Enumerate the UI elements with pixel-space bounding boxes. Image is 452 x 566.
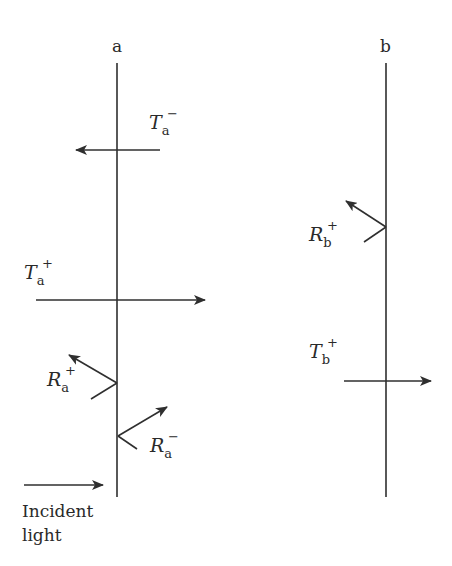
subscript: a — [162, 123, 170, 138]
label-ra-plus: R+a — [47, 370, 69, 389]
subscript: b — [322, 352, 330, 367]
subscript: a — [164, 446, 172, 461]
superscript: − — [167, 107, 178, 120]
ray-ra-plus-incoming — [91, 383, 117, 399]
label-ta-plus: T+a — [24, 263, 44, 282]
arrow-rb-plus — [346, 201, 386, 227]
symbol: T — [309, 340, 322, 362]
ray-ra-minus-incoming — [118, 436, 137, 449]
symbol: T — [24, 261, 37, 283]
superscript: + — [42, 257, 53, 270]
symbol: T — [149, 111, 162, 133]
ray-rb-plus-incoming — [364, 227, 386, 242]
superscript: − — [168, 430, 179, 443]
symbol: R — [309, 223, 323, 245]
caption-line-2: light — [22, 523, 93, 547]
superscript: + — [327, 219, 338, 232]
subscript: a — [37, 273, 45, 288]
arrow-ra-minus — [118, 407, 167, 436]
label-ta-minus: T−a — [149, 113, 169, 132]
interface-b-label: b — [380, 36, 391, 56]
label-tb-plus: T+b — [309, 342, 330, 361]
reflection-transmission-diagram — [0, 0, 452, 566]
superscript: + — [65, 364, 76, 377]
arrow-ra-plus — [69, 355, 117, 383]
incident-light-caption: Incident light — [22, 499, 93, 547]
label-rb-plus: R+b — [309, 225, 332, 244]
label-ra-minus: R−a — [150, 436, 172, 455]
caption-line-1: Incident — [22, 499, 93, 523]
symbol: R — [47, 368, 61, 390]
symbol: R — [150, 434, 164, 456]
interface-a-label: a — [112, 36, 122, 56]
superscript: + — [327, 336, 338, 349]
subscript: b — [323, 235, 331, 250]
subscript: a — [61, 380, 69, 395]
